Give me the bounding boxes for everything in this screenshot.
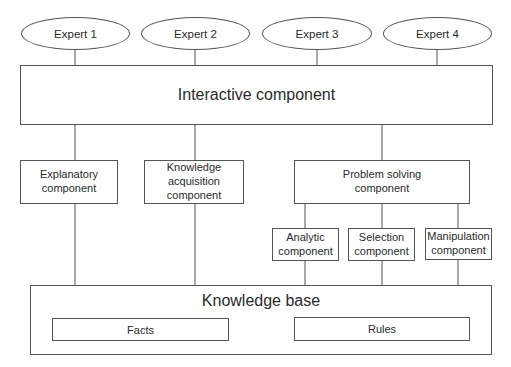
- selection-component-box: Selection component: [348, 228, 415, 261]
- expert-4-label: Expert 4: [416, 28, 459, 40]
- analytic-component-label: Analytic component: [278, 231, 332, 259]
- rules-box: Rules: [294, 317, 470, 341]
- knowledge-acquisition-component-label: Knowledge acquisition component: [167, 161, 221, 202]
- interactive-component-box: Interactive component: [20, 65, 493, 125]
- manipulation-component-label: Manipulation component: [427, 230, 489, 258]
- expert-3-label: Expert 3: [296, 28, 339, 40]
- expert-3-node: Expert 3: [262, 17, 372, 50]
- facts-box: Facts: [52, 318, 229, 341]
- explanatory-component-box: Explanatory component: [20, 160, 118, 204]
- selection-component-label: Selection component: [354, 231, 408, 259]
- analytic-component-box: Analytic component: [272, 228, 339, 261]
- expert-2-node: Expert 2: [141, 17, 250, 50]
- expert-1-label: Expert 1: [54, 28, 97, 40]
- knowledge-acquisition-component-box: Knowledge acquisition component: [144, 160, 244, 204]
- manipulation-component-box: Manipulation component: [425, 228, 492, 260]
- interactive-component-label: Interactive component: [178, 85, 335, 105]
- explanatory-component-label: Explanatory component: [40, 168, 98, 196]
- knowledge-base-box: Knowledge base Facts Rules: [30, 285, 492, 355]
- expert-4-node: Expert 4: [383, 17, 492, 50]
- rules-label: Rules: [368, 323, 396, 335]
- knowledge-base-label: Knowledge base: [31, 292, 491, 310]
- expert-2-label: Expert 2: [174, 28, 217, 40]
- expert-1-node: Expert 1: [21, 17, 130, 50]
- problem-solving-component-label: Problem solving component: [343, 168, 421, 196]
- facts-label: Facts: [127, 324, 154, 336]
- problem-solving-component-box: Problem solving component: [294, 160, 470, 204]
